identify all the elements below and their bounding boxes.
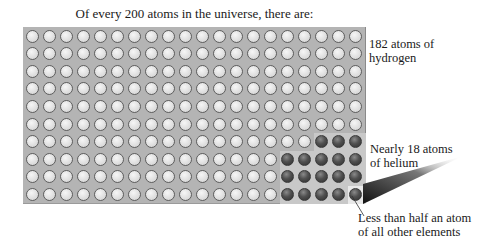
other-label-line2: of all other elements [358,225,460,238]
helium-label-line1: Nearly 18 atoms [370,142,453,156]
leader-line [0,0,482,238]
other-label-line1: Less than half an atom [358,211,471,225]
helium-label-line2: of helium [370,156,418,170]
hydrogen-label: 182 atoms of hydrogen [369,37,482,65]
